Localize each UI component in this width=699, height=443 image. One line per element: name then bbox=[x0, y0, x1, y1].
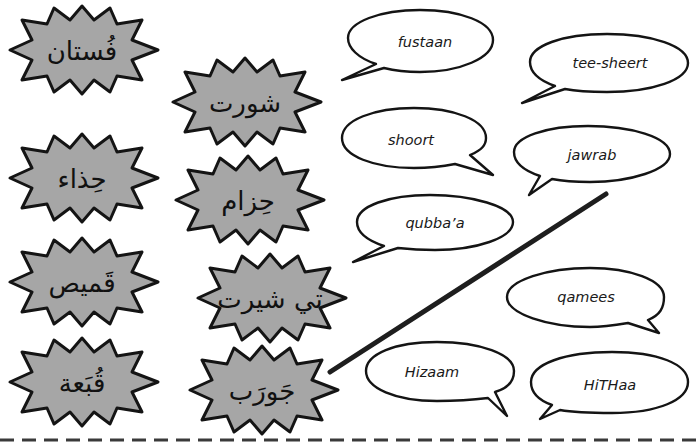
arabic-card-qubbaa[interactable]: قُبَعة bbox=[10, 338, 158, 426]
transliteration-text: shoort bbox=[388, 132, 435, 148]
arabic-word: حِذاء bbox=[57, 164, 106, 194]
transliteration-text: qamees bbox=[557, 289, 615, 305]
bubble-qubbaa[interactable]: qubba’a bbox=[353, 195, 513, 262]
transliteration-text: qubba’a bbox=[405, 215, 464, 231]
bubble-shoort[interactable]: shoort bbox=[342, 108, 493, 175]
arabic-card-teesheert[interactable]: تي شيرت bbox=[198, 254, 346, 342]
transliteration-text: fustaan bbox=[398, 34, 453, 50]
arabic-word: جَورَب bbox=[229, 376, 296, 407]
arabic-word: شورت bbox=[209, 88, 281, 119]
transliteration-text: Hizaam bbox=[405, 364, 459, 380]
bubble-hithaa[interactable]: HiTHaa bbox=[531, 352, 688, 419]
arabic-card-jawrab[interactable]: جَورَب bbox=[190, 346, 338, 434]
bubble-jawrab[interactable]: jawrab bbox=[514, 126, 670, 195]
bubble-tee-sheert[interactable]: tee-sheert bbox=[522, 34, 688, 103]
bubble-fustaan[interactable]: fustaan bbox=[342, 10, 493, 80]
arabic-card-qamees[interactable]: قَميص bbox=[10, 238, 158, 326]
arabic-card-fustaan[interactable]: فُستان bbox=[10, 6, 158, 94]
transliteration-text: jawrab bbox=[566, 147, 617, 163]
arabic-word: قَميص bbox=[48, 268, 115, 299]
arabic-word: حِزام bbox=[221, 186, 275, 217]
arabic-card-hizaam[interactable]: حِزام bbox=[176, 156, 324, 244]
arabic-word: قُبَعة bbox=[59, 366, 106, 398]
arabic-word: تي شيرت bbox=[217, 284, 323, 315]
bubble-qamees[interactable]: qamees bbox=[507, 268, 664, 333]
arabic-card-hithaa[interactable]: حِذاء bbox=[10, 134, 158, 222]
arabic-card-shoort[interactable]: شورت bbox=[173, 58, 321, 146]
transliteration-text: HiTHaa bbox=[584, 377, 636, 393]
arabic-word: فُستان bbox=[47, 34, 117, 66]
transliteration-text: tee-sheert bbox=[573, 55, 649, 71]
bubble-hizaam[interactable]: Hizaam bbox=[366, 342, 514, 416]
